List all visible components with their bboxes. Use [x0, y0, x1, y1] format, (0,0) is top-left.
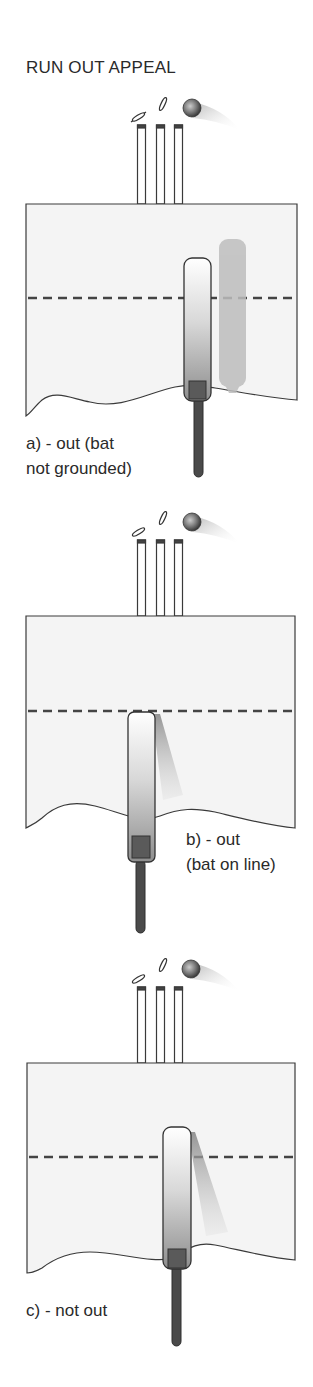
panel-a: [26, 97, 297, 477]
bails-icon: [132, 958, 168, 985]
bat-icon: [128, 712, 155, 933]
caption-c-line1: c) - not out: [26, 1298, 107, 1323]
field: [27, 1063, 295, 1273]
bails-icon: [131, 97, 168, 123]
ball-icon: [182, 960, 239, 991]
bails-icon: [132, 511, 168, 538]
stumps-icon: [138, 540, 183, 616]
stumps-icon: [138, 987, 183, 1063]
panel-c: [27, 958, 295, 1346]
run-out-diagram: [0, 0, 313, 1387]
bat-icon: [163, 1127, 191, 1346]
ghost-bat: [219, 239, 246, 393]
bat-icon: [184, 258, 211, 477]
caption-a: a) - out (bat not grounded): [26, 431, 132, 481]
caption-c: c) - not out: [26, 1298, 107, 1323]
caption-b: b) - out (bat on line): [186, 827, 276, 877]
ball-icon: [183, 513, 240, 544]
stumps-icon: [138, 125, 183, 204]
caption-a-line1: a) - out (bat: [26, 431, 132, 456]
caption-a-line2: not grounded): [26, 456, 132, 481]
field: [26, 204, 297, 416]
ball-icon: [183, 99, 240, 130]
caption-b-line1: b) - out: [186, 827, 276, 852]
caption-b-line2: (bat on line): [186, 852, 276, 877]
